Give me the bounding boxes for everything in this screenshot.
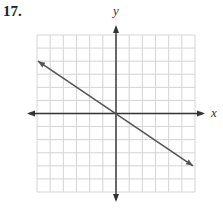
y-axis-down-arrow-icon xyxy=(113,194,119,202)
x-axis-left-arrow-icon xyxy=(27,111,35,117)
line-arrow-start-icon xyxy=(38,61,45,67)
y-axis-up-arrow-icon xyxy=(113,25,119,33)
line-arrow-end-icon xyxy=(186,160,193,166)
x-axis-right-arrow-icon xyxy=(197,111,205,117)
coordinate-plane xyxy=(0,0,223,208)
